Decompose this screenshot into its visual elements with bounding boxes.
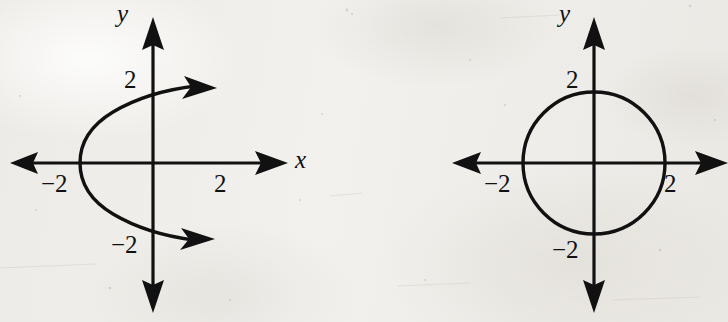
y-tick-label-negative-2: −2 xyxy=(111,231,138,258)
x-tick-label-positive-2: 2 xyxy=(214,170,227,197)
y-tick-label-positive-2: 2 xyxy=(566,66,579,93)
y-tick-label-positive-2: 2 xyxy=(124,66,137,93)
figure-page: y x 2 −2 −2 2 y xyxy=(0,0,728,322)
y-axis-variable-label: y xyxy=(114,0,129,27)
x-tick-label-positive-2: 2 xyxy=(664,170,677,197)
parabola-figure: y x 2 −2 −2 2 xyxy=(0,0,364,322)
left-graph-panel: y x 2 −2 −2 2 xyxy=(0,0,364,322)
circle-figure: y 2 −2 −2 2 xyxy=(364,0,728,322)
x-axis-variable-label: x xyxy=(294,146,306,173)
x-tick-label-negative-2: −2 xyxy=(484,170,511,197)
x-tick-label-negative-2: −2 xyxy=(41,170,68,197)
y-axis-variable-label: y xyxy=(556,0,571,27)
right-graph-panel: y 2 −2 −2 2 xyxy=(364,0,728,322)
y-tick-label-negative-2: −2 xyxy=(552,236,579,263)
